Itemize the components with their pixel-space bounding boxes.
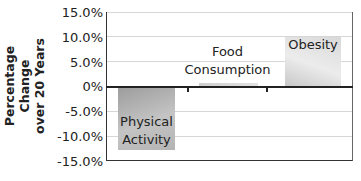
y-axis-title-line-1: Percentage Change	[2, 21, 32, 151]
bar-label-physical-activity: Physical Activity	[118, 113, 175, 149]
y-tick-label: 0%	[82, 79, 103, 94]
x-tick	[187, 86, 189, 92]
y-tick-label: -5.0%	[65, 104, 103, 119]
y-tick-label: -10.0%	[57, 129, 103, 144]
bar-label-food-consumption: Food Consumption	[180, 43, 275, 79]
y-tick-label: 10.0%	[62, 30, 103, 45]
y-tick-label: -15.0%	[57, 154, 103, 169]
bar-label-obesity: Obesity	[283, 36, 343, 54]
y-axis-title: Percentage Change over 20 Years	[3, 26, 45, 146]
y-tick-label: 15.0%	[62, 5, 103, 20]
y-tick-label: 5.0%	[70, 55, 103, 70]
x-tick	[266, 86, 268, 92]
zero-baseline	[106, 86, 353, 88]
y-axis-title-line-2: over 20 Years	[32, 21, 47, 151]
